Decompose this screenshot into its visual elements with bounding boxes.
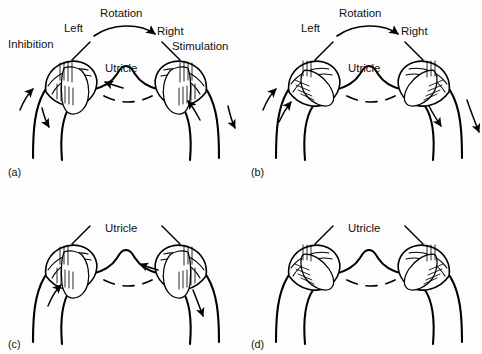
panel-d: Utricle (d) — [251, 222, 462, 350]
panel-a-label-rotation: Rotation — [100, 7, 142, 19]
panel-a-rotation-arrow — [94, 26, 155, 36]
panel-d-utricle-dashed-connector — [347, 280, 395, 286]
figure-root: Inhibition Left Rotation Right Stimulati… — [0, 0, 482, 354]
panel-a-left-leader — [72, 42, 90, 60]
panel-d-label-utricle: Utricle — [348, 222, 380, 234]
panel-a-label-inhibition: Inhibition — [8, 38, 54, 50]
panel-d-right-leader — [405, 226, 423, 244]
panel-a-right-ampulla — [155, 61, 206, 114]
panel-c-utricle-dashed-connector — [104, 280, 152, 286]
panel-b-label-right: Right — [401, 25, 428, 37]
panel-b-utricle-dashed-connector — [347, 96, 395, 102]
panel-a-label-stimulation: Stimulation — [172, 40, 228, 52]
panel-b-label-left: Left — [301, 22, 321, 34]
panel-a: Inhibition Left Rotation Right Stimulati… — [8, 7, 235, 178]
panel-b-right-ampulla — [398, 61, 449, 106]
panel-c-id: (c) — [8, 338, 21, 350]
panel-a-utricle-dashed-connector — [104, 96, 152, 102]
panel-c-label-utricle: Utricle — [105, 222, 137, 234]
panel-b-id: (b) — [251, 166, 264, 178]
panel-b: Left Rotation Right Utricle (b) — [251, 7, 479, 178]
panel-c-right-ampulla — [155, 245, 206, 298]
panel-d-right-ampulla — [398, 245, 449, 290]
panel-c-right-leader — [162, 226, 180, 244]
panel-a-label-utricle: Utricle — [105, 62, 137, 74]
panel-b-label-rotation: Rotation — [339, 7, 381, 19]
panel-b-left-leader — [315, 42, 333, 60]
panel-d-left-ampulla — [289, 245, 340, 290]
panel-b-left-ampulla — [289, 61, 340, 106]
panel-b-label-utricle: Utricle — [348, 62, 380, 74]
panel-d-id: (d) — [251, 338, 264, 350]
panel-a-label-right: Right — [157, 25, 184, 37]
anatomy-figure-svg: Inhibition Left Rotation Right Stimulati… — [0, 0, 482, 354]
panel-b-right-leader — [405, 42, 423, 60]
panel-c: Utricle (c) — [8, 222, 219, 350]
panel-b-rotation-arrow — [337, 26, 398, 36]
panel-a-left-ampulla — [46, 61, 97, 114]
panel-d-left-leader — [315, 226, 333, 244]
panel-c-left-ampulla — [46, 245, 97, 298]
panel-a-label-left: Left — [64, 22, 84, 34]
panel-c-left-leader — [72, 226, 90, 244]
panel-a-id: (a) — [8, 166, 21, 178]
